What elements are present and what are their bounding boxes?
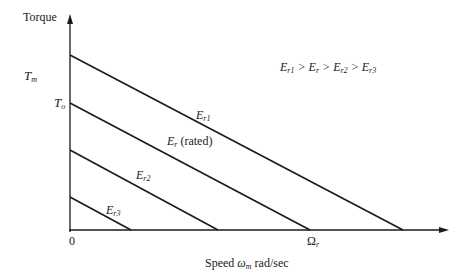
x-axis-label: Speed ωm rad/sec — [205, 256, 289, 271]
origin-label: 0 — [69, 234, 75, 249]
tick-label-to: To — [54, 95, 65, 111]
label-er-rated: Er (rated) — [167, 134, 212, 149]
label-er1: Er1 — [196, 108, 210, 123]
tick-label-tm: Tm — [24, 68, 37, 84]
x-axis-arrow-icon — [439, 227, 449, 233]
y-axis-arrow-icon — [67, 14, 73, 24]
label-er2: Er2 — [136, 168, 150, 183]
tick-label-omega-r: Ωr — [307, 234, 319, 249]
line-er2 — [70, 150, 218, 230]
inequality-annotation: Er1 > Er > Er2 > Er3 — [280, 60, 376, 75]
label-er3: Er3 — [106, 203, 120, 218]
line-er3 — [70, 197, 131, 230]
y-axis-label: Torque — [23, 10, 57, 25]
